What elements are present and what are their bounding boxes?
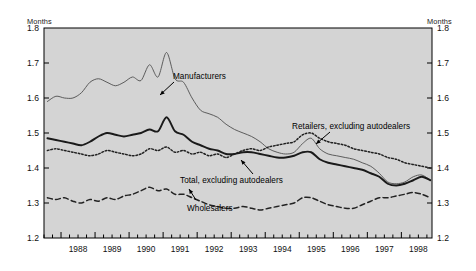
y-tick-label-left: 1.8 bbox=[17, 23, 39, 33]
y-tick-label-left: 1.4 bbox=[17, 163, 39, 173]
y-tick-label-right: 1.8 bbox=[437, 23, 459, 33]
chart-canvas bbox=[0, 0, 476, 271]
y-tick-label-right: 1.2 bbox=[437, 233, 459, 243]
y-tick-label-left: 1.6 bbox=[17, 93, 39, 103]
y-tick-label-left: 1.7 bbox=[17, 58, 39, 68]
y-tick-label-right: 1.3 bbox=[437, 198, 459, 208]
y-tick-label-right: 1.6 bbox=[437, 93, 459, 103]
plot-area-background bbox=[44, 28, 432, 238]
y-tick-label-right: 1.7 bbox=[437, 58, 459, 68]
series-annotation-label: Manufacturers bbox=[173, 72, 226, 81]
y-tick-label-left: 1.3 bbox=[17, 198, 39, 208]
inventory-sales-ratio-chart: Months Months 1.81.71.61.51.41.31.2 1.81… bbox=[0, 0, 476, 271]
series-annotation-label: Total, excluding autodealers bbox=[180, 176, 283, 185]
series-annotation-label: Wholesalers bbox=[187, 204, 233, 213]
y-tick-label-right: 1.4 bbox=[437, 163, 459, 173]
y-tick-label-left: 1.5 bbox=[17, 128, 39, 138]
y-tick-label-right: 1.5 bbox=[437, 128, 459, 138]
y-tick-label-left: 1.2 bbox=[17, 233, 39, 243]
series-annotation-label: Retailers, excluding autodealers bbox=[292, 122, 410, 131]
x-tick-label: 1998 bbox=[398, 244, 438, 254]
